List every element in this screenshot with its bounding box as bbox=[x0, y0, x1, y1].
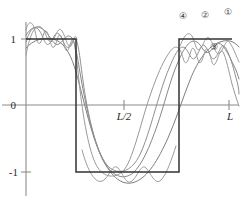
x-axis-label-half-L: L/2 bbox=[116, 110, 132, 122]
fourier-gibbs-chart: 1 0 -1 L/2 L ① ② ③ ④ bbox=[0, 0, 241, 201]
curve-label-4: ④ bbox=[179, 11, 187, 21]
curve-label-3: ③ bbox=[210, 42, 218, 52]
curve-label-1: ① bbox=[224, 7, 232, 17]
chart-canvas: 1 0 -1 L/2 L ① ② ③ ④ bbox=[0, 0, 241, 201]
y-axis-label-1: 1 bbox=[11, 33, 17, 45]
y-axis-label-minus-1: -1 bbox=[9, 166, 18, 178]
y-axis-label-0: 0 bbox=[11, 99, 17, 111]
x-axis-label-L: L bbox=[226, 110, 233, 122]
curve-label-2: ② bbox=[201, 10, 209, 20]
